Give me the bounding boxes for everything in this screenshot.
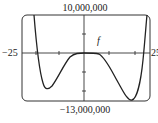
x-min-label: −25 (2, 48, 18, 58)
viewing-window-frame (22, 15, 150, 101)
y-min-label: −13,000,000 (0, 105, 158, 115)
x-max-label: 25 (151, 48, 158, 58)
y-max-label: 10,000,000 (0, 3, 158, 13)
curve-f (34, 15, 147, 100)
curve-label-f: f (97, 36, 100, 46)
